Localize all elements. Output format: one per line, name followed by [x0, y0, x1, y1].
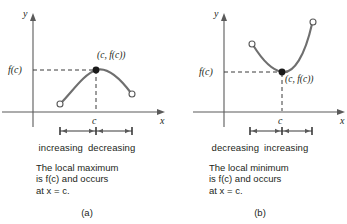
description-line-2: is f(c) and occurs [209, 173, 347, 184]
interval-arrow-right-icon [125, 129, 130, 133]
description-block: The local minimum is f(c) and occurs at … [209, 162, 347, 196]
y-axis-label: y [213, 8, 219, 19]
x-axis-label: x [339, 115, 345, 126]
x-value-label-c: c [278, 115, 283, 126]
figure-label: (a) [0, 207, 174, 218]
description-block: The local maximum is f(c) and occurs at … [36, 162, 176, 196]
y-value-label-fc: f(c) [199, 66, 214, 78]
y-axis-label: y [22, 8, 28, 19]
y-axis-arrow-icon [30, 13, 36, 21]
description-line-1: The local maximum [36, 162, 176, 173]
open-endpoint-right [310, 19, 316, 25]
figure-label: (b) [173, 207, 347, 218]
open-endpoint-right [129, 91, 135, 97]
interval-arrow-right-icon [305, 129, 310, 133]
extremum-point-label: (c, f(c)) [285, 74, 313, 85]
open-endpoint-left [57, 101, 63, 107]
plot-local-minimum: y x f(c) c (c, f(c)) [173, 0, 347, 140]
description-line-2: is f(c) and occurs [36, 173, 176, 184]
interval-arrow-midright-icon [98, 129, 103, 133]
panel-local-minimum: y x f(c) c (c, f(c)) [173, 0, 347, 224]
interval-arrow-left-icon [62, 129, 67, 133]
trend-label-right: increasing [264, 142, 308, 153]
local-extrema-figure-pair: y x f(c) c (c, f(c)) [0, 0, 347, 224]
interval-arrow-midright-icon [284, 129, 289, 133]
trend-label-left: decreasing [212, 142, 259, 153]
y-axis-arrow-icon [221, 13, 227, 21]
open-endpoint-left [249, 41, 255, 47]
function-curve [253, 24, 312, 72]
x-axis-label: x [159, 115, 165, 126]
interval-arrow-midleft-icon [89, 129, 94, 133]
trend-label-left: increasing [39, 142, 83, 153]
plot-local-maximum: y x f(c) c (c, f(c)) [0, 0, 174, 140]
extremum-point-label: (c, f(c)) [97, 50, 125, 61]
description-line-1: The local minimum [209, 162, 347, 173]
trend-labels: decreasingincreasing [173, 142, 347, 153]
description-line-3: at x = c. [36, 185, 176, 196]
y-value-label-fc: f(c) [8, 64, 23, 76]
trend-label-right: decreasing [88, 142, 135, 153]
interval-arrow-left-icon [252, 129, 257, 133]
extremum-point-marker [93, 67, 100, 74]
interval-arrow-midleft-icon [275, 129, 280, 133]
trend-labels: increasingdecreasing [0, 142, 174, 153]
panel-local-maximum: y x f(c) c (c, f(c)) [0, 0, 174, 224]
x-value-label-c: c [92, 115, 97, 126]
description-line-3: at x = c. [209, 185, 347, 196]
